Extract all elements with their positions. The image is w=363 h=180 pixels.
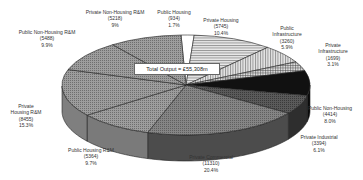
slice-label-line: Infrastructure [318,48,347,54]
slice-label-line: 1.7% [157,22,190,28]
slice-label-line: 6.1% [300,147,337,153]
slice-label-line: Infrastructure [272,31,301,37]
slice-label-line: 9.9% [19,42,76,48]
slice-label: Private Housing(5745)10.4% [203,17,238,36]
slice-label-line: Housing R&M [11,109,42,115]
slice-label-line: 9% [86,22,145,28]
slice-label: Private Non-Housing R&M(5218)9% [86,9,145,28]
slice-label: PrivateInfrastructure(1699)3.1% [318,42,347,67]
slice-label-line: 8.0% [308,118,352,124]
slice-label-line: 9.7% [68,160,114,166]
slice-label: Public Non-Housing R&M(5488)9.9% [19,29,76,48]
total-output-label: Total Output = £55,308m [134,63,220,75]
slice-label: PublicInfrastructure(3260)5.9% [272,25,301,50]
slice-label-line: 3.1% [318,61,347,67]
slice-label-line: 10.4% [203,30,238,36]
slice-label: PrivateHousing R&M(8455)15.3% [11,103,42,128]
slice-label: Private Commercial(11310)20.4% [189,154,233,173]
slice-label: Public Housing R&M(5364)9.7% [68,147,114,166]
slice-label: Private Industrial(3394)6.1% [300,134,337,153]
slice-label-line: 5.9% [272,44,301,50]
slice-label-line: 15.3% [11,122,42,128]
slice-label: Public Non-Housing(4414)8.0% [308,105,352,124]
pie-slices [62,35,310,161]
slice-label: Public Housing(934)1.7% [157,9,190,28]
slice-label-line: 20.4% [189,167,233,173]
